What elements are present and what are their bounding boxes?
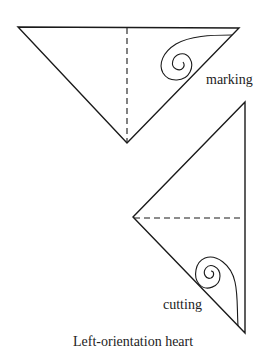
marking-label: marking <box>206 72 253 87</box>
cutting-label: cutting <box>163 297 202 312</box>
cutting-spiral <box>196 257 238 326</box>
diagram-canvas: marking cutting Left-orientation heart <box>0 0 263 361</box>
figure-caption: Left-orientation heart <box>73 334 193 349</box>
